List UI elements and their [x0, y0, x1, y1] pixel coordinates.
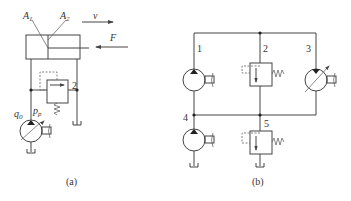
area1-leader: [32, 20, 48, 48]
area2-label: A2: [59, 10, 70, 23]
caption-a: (a): [66, 176, 77, 188]
valve-number-label: 2: [72, 80, 77, 91]
relief-valve-2-icon: [242, 63, 284, 86]
pressure-label: pp: [32, 105, 42, 118]
hydraulic-cylinder-icon: [26, 35, 89, 59]
relief-valve-icon: [40, 72, 68, 115]
junction-dot: [258, 113, 261, 116]
junction-dot: [192, 113, 195, 116]
label-2: 2: [263, 43, 268, 54]
area1-label: A1: [22, 10, 33, 23]
label-1: 1: [197, 43, 202, 54]
pump-icon: [20, 120, 51, 153]
label-3: 3: [306, 43, 311, 54]
pump-1-icon: [183, 69, 214, 91]
velocity-label: v: [93, 10, 98, 21]
pump-4-icon: [183, 129, 214, 167]
label-5: 5: [264, 118, 269, 129]
panel-a: A1 A2 v F 2: [14, 10, 128, 188]
variable-motor-3-icon: [305, 66, 336, 92]
force-label: F: [109, 32, 117, 43]
hydraulic-circuit-figure: A1 A2 v F 2: [0, 0, 351, 201]
flow-label: q0: [14, 108, 23, 121]
caption-b: (b): [252, 176, 264, 188]
junction-dot: [29, 88, 32, 91]
junction-dot: [258, 31, 261, 34]
panel-b: 1 2 3 4: [183, 31, 336, 188]
label-4: 4: [183, 112, 188, 123]
area2-leader: [48, 20, 66, 40]
relief-valve-5-icon: [242, 131, 284, 167]
